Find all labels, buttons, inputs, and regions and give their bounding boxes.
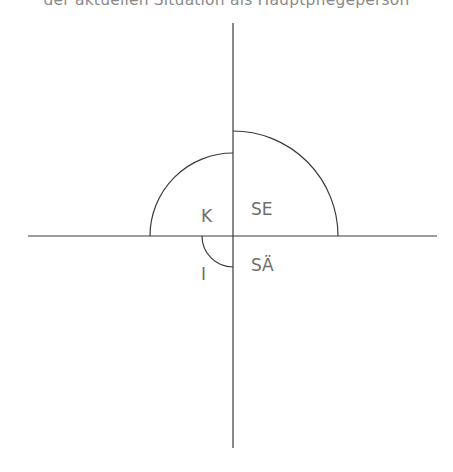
arc-se: [233, 131, 338, 236]
arc-i: [202, 236, 233, 267]
label-k: K: [201, 206, 213, 226]
quadrant-diagram: K SE SÄ I: [0, 0, 453, 472]
arc-k: [150, 153, 233, 236]
label-se: SE: [251, 199, 273, 219]
label-i: I: [201, 264, 206, 284]
label-sa: SÄ: [251, 255, 274, 275]
